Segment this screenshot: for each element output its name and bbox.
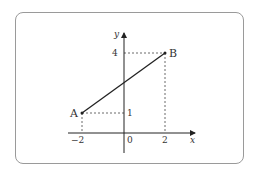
x-tick-2: 2: [162, 135, 168, 145]
y-axis-label: y: [113, 29, 120, 39]
y-tick-4: 4: [112, 48, 118, 58]
point-a: [81, 112, 84, 115]
label-point-b: B: [169, 47, 177, 60]
x-tick-minus-2: −2: [71, 135, 84, 145]
y-tick-1: 1: [127, 108, 133, 118]
coordinate-diagram: A B 4 1 −2 2 0 x y: [0, 0, 256, 178]
point-b: [164, 52, 167, 55]
x-axis-label: x: [190, 135, 195, 145]
label-point-a: A: [69, 107, 79, 120]
origin-label: 0: [127, 135, 133, 145]
